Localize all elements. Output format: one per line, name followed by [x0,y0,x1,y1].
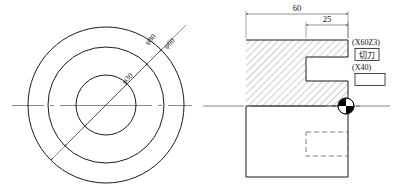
note-tool-name: 切刀 [359,51,375,60]
empty-note-box [355,74,385,86]
lower-body-outline [246,106,348,177]
dim-label-60: 60 [293,3,302,13]
dim-label-25: 25 [323,14,332,24]
note-coord-lower: (X40) [352,63,371,72]
note-coord-upper: (X60Z3) [352,38,380,47]
tool-position-marker [338,98,354,114]
technical-drawing-canvas: φ80 φ60 φ30 60 25 [0,0,402,192]
hidden-feature-rect [306,132,348,156]
dim-label-d60: φ60 [162,36,177,51]
dim-line-d30 [85,84,127,126]
right-section-view: 60 25 (X60Z3) 切刀 (X40) [203,3,390,177]
drawing-sheet: φ80 φ60 φ30 60 25 [0,0,402,192]
section-hatch-region [246,40,348,106]
annotation-note-block: (X60Z3) 切刀 (X40) [352,38,385,86]
left-end-view: φ80 φ60 φ30 [12,25,192,183]
dim-label-d30: φ30 [120,71,135,86]
